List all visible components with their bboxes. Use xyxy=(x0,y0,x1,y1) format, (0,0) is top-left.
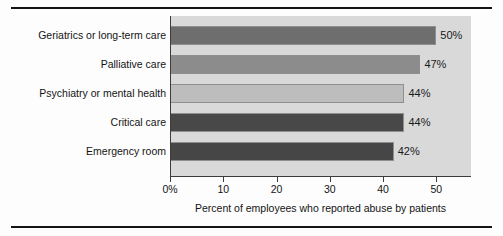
x-axis-tick-label: 40 xyxy=(363,183,403,195)
x-axis-tick-label: 0% xyxy=(150,183,190,195)
bar-value-label: 47% xyxy=(424,55,446,74)
bottom-divider-rule xyxy=(11,226,492,228)
x-axis-tick xyxy=(223,177,224,182)
top-divider-rule xyxy=(11,7,492,9)
bar-value-label: 50% xyxy=(440,26,462,45)
y-axis-line xyxy=(170,16,171,177)
bar xyxy=(170,55,420,74)
category-label: Psychiatry or mental health xyxy=(3,84,166,103)
x-axis-tick xyxy=(330,177,331,182)
x-axis-tick xyxy=(383,177,384,182)
category-label: Emergency room xyxy=(3,142,166,161)
bar-chart-figure: 50%47%44%44%42% Geriatrics or long-term … xyxy=(0,0,503,236)
category-label-row: Critical care xyxy=(0,113,166,132)
x-axis-tick-label: 30 xyxy=(310,183,350,195)
bar xyxy=(170,26,436,45)
category-label-row: Emergency room xyxy=(0,142,166,161)
x-axis-tick xyxy=(170,177,171,182)
bar xyxy=(170,113,404,132)
bar-value-label: 44% xyxy=(408,84,430,103)
bar-value-label: 42% xyxy=(398,142,420,161)
x-axis-tick-label: 10 xyxy=(203,183,243,195)
category-label-row: Geriatrics or long-term care xyxy=(0,26,166,45)
category-label: Critical care xyxy=(3,113,166,132)
category-label: Geriatrics or long-term care xyxy=(3,26,166,45)
x-axis-tick xyxy=(277,177,278,182)
bar xyxy=(170,84,404,103)
x-axis-tick-label: 20 xyxy=(257,183,297,195)
category-label-row: Psychiatry or mental health xyxy=(0,84,166,103)
bar-value-label: 44% xyxy=(408,113,430,132)
x-axis-tick-label: 50 xyxy=(416,183,456,195)
bar xyxy=(170,142,394,161)
x-axis-line xyxy=(170,176,471,177)
x-axis-title: Percent of employees who reported abuse … xyxy=(170,202,471,214)
category-label: Palliative care xyxy=(3,55,166,74)
x-axis-tick xyxy=(436,177,437,182)
category-label-row: Palliative care xyxy=(0,55,166,74)
